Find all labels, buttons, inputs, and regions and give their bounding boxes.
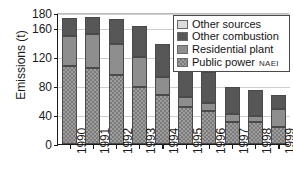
bar-segment-other-combustion: [109, 19, 124, 44]
legend-swatch-public-power: [177, 58, 188, 67]
legend-item-residential-plant: Residential plant: [177, 43, 287, 56]
bar-1991: [85, 13, 100, 144]
bar-segment-other-combustion: [155, 44, 170, 77]
bar-1994: [155, 13, 170, 144]
y-axis-tick-label: 0: [22, 138, 52, 152]
y-axis-tick: [54, 116, 58, 117]
x-axis-tick: [278, 144, 279, 149]
y-axis-tick: [54, 58, 58, 59]
legend-swatch-other-combustion: [177, 32, 188, 41]
x-axis-tick: [209, 144, 210, 149]
emissions-stacked-bar-chart: Emissions (t) 04080120160180199019911992…: [0, 0, 293, 189]
legend-label-other-combustion: Other combustion: [192, 31, 279, 42]
bar-segment-residential-plant: [85, 34, 100, 68]
y-axis-tick-label: 120: [22, 51, 52, 65]
bar-segment-other-combustion: [62, 18, 77, 36]
bar-segment-residential-plant: [248, 116, 263, 122]
bar-segment-other-combustion: [85, 17, 100, 34]
x-axis-tick: [70, 144, 71, 149]
y-axis-tick: [54, 145, 58, 146]
x-axis-tick: [186, 144, 187, 149]
y-axis-tick: [54, 87, 58, 88]
bar-segment-residential-plant: [62, 36, 77, 66]
bar-segment-residential-plant: [271, 109, 286, 127]
y-axis-tick-label: 160: [22, 22, 52, 36]
y-axis-tick: [54, 29, 58, 30]
legend-item-other-combustion: Other combustion: [177, 31, 287, 44]
legend-item-other-sources: Other sources: [177, 18, 287, 31]
x-axis-tick: [255, 144, 256, 149]
x-axis-tick-label: 1999: [283, 128, 293, 154]
bar-segment-other-combustion: [225, 87, 240, 115]
bar-segment-other-combustion: [248, 90, 263, 116]
bar-segment-other-combustion: [271, 95, 286, 110]
y-axis-tick: [54, 14, 58, 15]
bar-segment-residential-plant: [201, 103, 216, 111]
legend-swatch-other-sources: [177, 20, 188, 29]
bar-segment-other-combustion: [201, 72, 216, 103]
legend-swatch-residential-plant: [177, 45, 188, 54]
y-axis-tick-label: 40: [22, 109, 52, 123]
legend-label-residential-plant: Residential plant: [192, 44, 273, 55]
bar-1992: [109, 13, 124, 144]
bar-segment-residential-plant: [225, 114, 240, 122]
bar-segment-residential-plant: [109, 44, 124, 75]
bar-1990: [62, 13, 77, 144]
x-axis-tick: [162, 144, 163, 149]
legend-label-public-power: Public power: [192, 57, 255, 68]
x-axis-tick: [93, 144, 94, 149]
bar-segment-other-combustion: [132, 26, 147, 57]
bar-1993: [132, 13, 147, 144]
legend-label-other-sources: Other sources: [192, 19, 261, 30]
x-axis-tick: [139, 144, 140, 149]
x-axis-tick: [116, 144, 117, 149]
bar-segment-residential-plant: [178, 97, 193, 106]
bar-segment-residential-plant: [132, 57, 147, 86]
y-axis-tick-label: 80: [22, 80, 52, 94]
bar-segment-residential-plant: [155, 77, 170, 94]
naei-watermark: NAEI: [258, 59, 280, 68]
x-axis-tick: [232, 144, 233, 149]
y-axis-tick-label: 180: [22, 7, 52, 21]
